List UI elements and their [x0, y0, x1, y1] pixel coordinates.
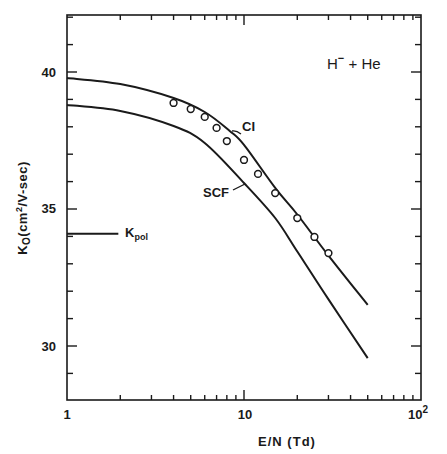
experimental-data-point	[325, 250, 332, 257]
y-tick-label-40: 40	[42, 65, 56, 80]
axis-ticks	[67, 15, 421, 400]
experimental-data-point	[170, 100, 177, 107]
x-tick-label-10: 10	[238, 407, 252, 422]
y-label-rest: (cm	[15, 212, 30, 237]
scf-curve	[67, 105, 368, 358]
y-label-k: K	[15, 245, 30, 255]
chart-container: 40 35 30 1 10 102 E/N (Td) KO(cm2/V-sec)…	[0, 0, 447, 454]
x-tick-label-100: 102	[408, 404, 428, 422]
y-label-sub: O	[21, 237, 32, 245]
annotation-rest: + He	[344, 55, 380, 72]
scf-curve-label: SCF	[203, 185, 229, 200]
plot-border	[67, 15, 421, 400]
kpol-sub: pol	[134, 232, 148, 242]
mobility-chart: 40 35 30 1 10 102 E/N (Td) KO(cm2/V-sec)…	[0, 0, 447, 454]
system-annotation: H− + He	[327, 52, 381, 72]
y-label-tail: /V-sec)	[15, 161, 30, 206]
ci-curve-label: CI	[242, 119, 255, 134]
y-tick-label-35: 35	[42, 201, 56, 216]
experimental-data-point	[223, 138, 230, 145]
experimental-data-point	[272, 190, 279, 197]
experimental-data-point	[255, 171, 262, 178]
x-tick-label-1: 1	[63, 407, 70, 422]
annotation-h: H	[327, 55, 338, 72]
y-axis-label: KO(cm2/V-sec)	[14, 161, 32, 255]
experimental-data-point	[294, 215, 301, 222]
experimental-data-point	[201, 114, 208, 121]
x-axis-label: E/N (Td)	[258, 434, 316, 449]
x-tick-label-100-exp: 2	[422, 404, 428, 415]
theory-curves	[67, 78, 368, 358]
experimental-data-point	[311, 234, 318, 241]
plot-frame	[67, 15, 421, 400]
experimental-data-point	[241, 157, 248, 164]
kpol-label: Kpol	[125, 225, 148, 242]
x-tick-label-100-base: 10	[408, 407, 422, 422]
experimental-data-point	[187, 106, 194, 113]
experimental-data-point	[213, 124, 220, 131]
y-tick-label-30: 30	[42, 339, 56, 354]
scf-leader-line	[233, 184, 245, 190]
